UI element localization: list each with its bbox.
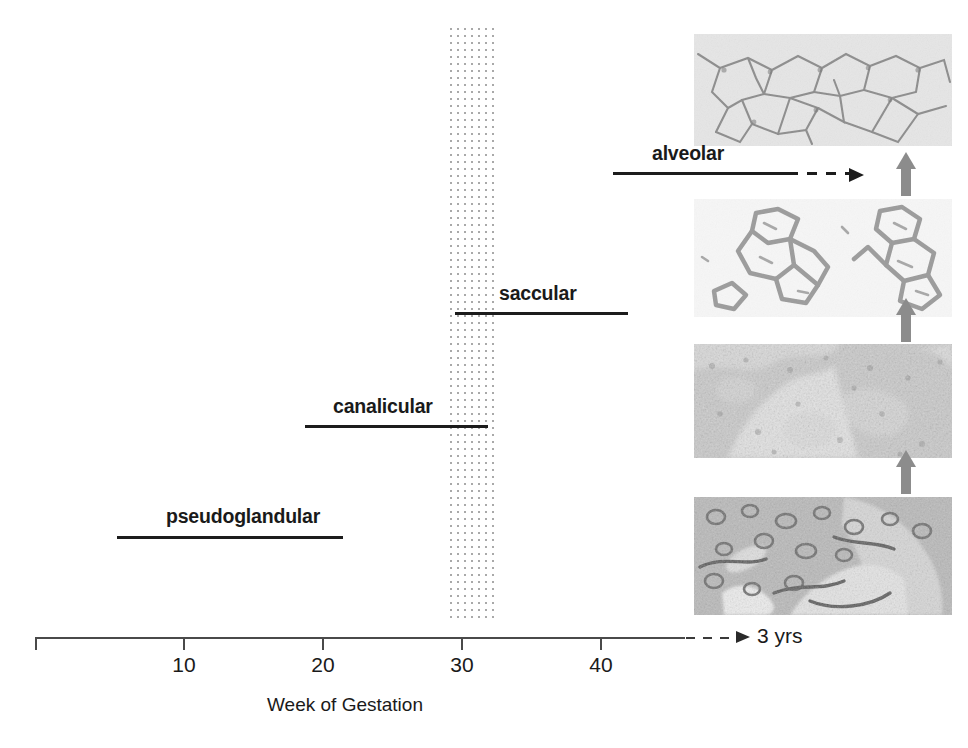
connector-arrow-pseudoglandular-to-canalicular xyxy=(896,450,916,494)
x-axis-end-label: 3 yrs xyxy=(757,624,803,648)
x-axis-arrowhead xyxy=(736,631,750,643)
x-axis-ticklabel-10: 10 xyxy=(172,653,195,677)
stage-bar-alveolar xyxy=(613,172,788,175)
stage-bar-saccular xyxy=(455,312,628,315)
stage-bar-pseudoglandular xyxy=(117,536,343,539)
x-axis-ticklabel-40: 40 xyxy=(589,653,612,677)
x-axis-ticklabel-20: 20 xyxy=(311,653,334,677)
x-axis-tick-30 xyxy=(461,637,463,650)
x-axis-ticklabel-30: 30 xyxy=(450,653,473,677)
stage-arrowhead-alveolar xyxy=(849,168,864,182)
connector-arrow-saccular-to-alveolar xyxy=(896,152,916,196)
stage-label-saccular: saccular xyxy=(499,282,577,305)
x-axis-dashed-extension xyxy=(686,637,738,639)
stage-bar-alveolar-dashed-extension xyxy=(788,172,850,175)
x-axis-tick-10 xyxy=(183,637,185,650)
x-axis-tick-20 xyxy=(322,637,324,650)
stage-bar-canalicular xyxy=(305,425,488,428)
micrograph-canalicular xyxy=(694,344,952,458)
x-axis-line xyxy=(35,637,685,639)
x-axis-tick-40 xyxy=(600,637,602,650)
connector-arrow-canalicular-to-saccular xyxy=(896,298,916,342)
stage-label-pseudoglandular: pseudoglandular xyxy=(166,505,320,528)
lung-development-timeline-figure: alveolar saccular canalicular pseudoglan… xyxy=(0,0,968,748)
transition-band-stipple xyxy=(450,28,498,623)
stage-label-alveolar: alveolar xyxy=(652,142,724,165)
micrograph-pseudoglandular xyxy=(694,497,952,615)
x-axis-origin-tick xyxy=(35,637,37,650)
micrograph-alveolar xyxy=(694,34,952,146)
stage-label-canalicular: canalicular xyxy=(333,395,433,418)
x-axis-title: Week of Gestation xyxy=(0,694,690,716)
